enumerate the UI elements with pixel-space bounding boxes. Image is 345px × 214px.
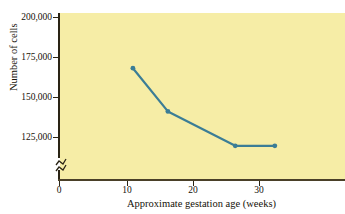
y-tick-200000 xyxy=(53,17,60,18)
line-chart-figure: 200,000 175,000 150,000 125,000 0 10 20 … xyxy=(0,0,345,214)
x-axis-line xyxy=(58,179,345,181)
x-tick-label-20: 20 xyxy=(178,186,208,196)
plot-area xyxy=(60,13,345,179)
x-tick-label-10: 10 xyxy=(112,186,142,196)
x-axis-title: Approximate gestation age (weeks) xyxy=(58,199,345,210)
y-axis-title: Number of cells xyxy=(9,0,20,117)
y-tick-label-150000: 150,000 xyxy=(21,93,52,103)
x-tick-label-30: 30 xyxy=(244,186,274,196)
y-tick-label-200000: 200,000 xyxy=(21,13,52,23)
x-tick-label-0: 0 xyxy=(44,186,74,196)
y-tick-label-175000: 175,000 xyxy=(21,53,52,63)
y-tick-125000 xyxy=(53,137,60,138)
y-tick-150000 xyxy=(53,97,60,98)
axis-break-icon xyxy=(53,155,69,173)
y-tick-label-125000: 125,000 xyxy=(21,133,52,143)
y-tick-175000 xyxy=(53,57,60,58)
